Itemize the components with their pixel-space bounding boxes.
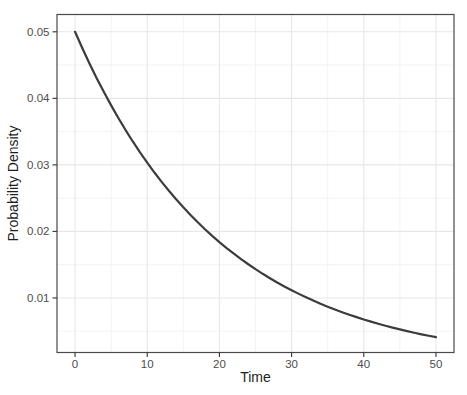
x-tick-label: 40 <box>357 358 370 370</box>
x-tick-label: 30 <box>285 358 298 370</box>
grid-layer <box>57 15 454 353</box>
x-tick-label: 10 <box>141 358 154 370</box>
density-plot-figure: 010203040500.010.020.030.040.05 Time Pro… <box>0 0 467 395</box>
y-axis-title: Probability Density <box>5 126 21 242</box>
x-axis-title: Time <box>240 369 271 385</box>
x-tick-label: 0 <box>72 358 78 370</box>
y-tick-label: 0.03 <box>27 159 49 171</box>
y-tick-label: 0.04 <box>27 92 50 104</box>
y-tick-label: 0.01 <box>27 292 49 304</box>
x-tick-label: 20 <box>213 358 226 370</box>
chart-canvas: 010203040500.010.020.030.040.05 Time Pro… <box>0 0 467 395</box>
y-tick-label: 0.02 <box>27 225 49 237</box>
y-tick-label: 0.05 <box>27 26 49 38</box>
x-tick-label: 50 <box>430 358 443 370</box>
